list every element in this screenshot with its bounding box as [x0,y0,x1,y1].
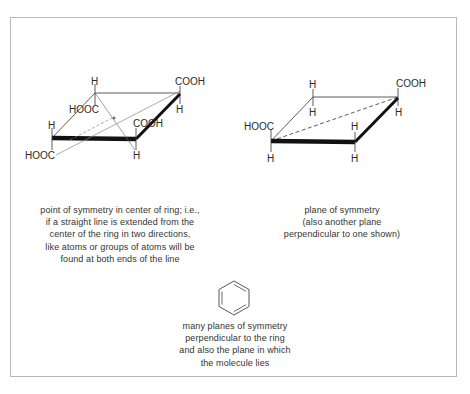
label-h: H [267,153,274,164]
caption-line: (also another plane [252,216,432,228]
caption-line: if a straight line is extended from the [20,216,220,228]
caption-line: point of symmetry in center of ring; i.e… [20,204,220,216]
caption-line: plane of symmetry [252,204,432,216]
caption-line: perpendicular to one shown) [252,228,432,240]
label-hooc: HOOC [69,104,99,115]
label-cooh: COOH [175,76,205,87]
label-cooh: COOH [396,78,426,89]
right-caption: plane of symmetry (also another plane pe… [252,204,432,241]
benzene-ring-diagram [210,278,260,318]
label-hooc: HOOC [244,121,274,132]
label-h: H [351,153,358,164]
caption-line: found at both ends of the line [20,253,220,265]
label-cooh: COOH [133,118,163,129]
label-h: H [309,79,316,90]
label-h: H [48,120,55,131]
label-h: H [309,107,316,118]
label-h: H [351,121,358,132]
caption-line: like atoms or groups of atoms will be [20,241,220,253]
caption-line: and also the plane in which [140,344,330,356]
right-molecule-diagram: H H COOH H HOOC H H H [230,60,460,180]
label-hooc: HOOC [25,150,55,161]
label-h: H [176,104,183,115]
label-h: H [91,76,98,87]
left-molecule-diagram: H COOH HOOC H H COOH HOOC H [0,60,230,180]
caption-line: many planes of symmetry [140,320,330,332]
left-caption: point of symmetry in center of ring; i.e… [20,204,220,265]
label-h: H [395,107,402,118]
label-h: H [133,150,140,161]
benzene-caption: many planes of symmetry perpendicular to… [140,320,330,369]
caption-line: center of the ring in two directions, [20,228,220,240]
caption-line: perpendicular to the ring [140,332,330,344]
caption-line: the molecule lies [140,357,330,369]
